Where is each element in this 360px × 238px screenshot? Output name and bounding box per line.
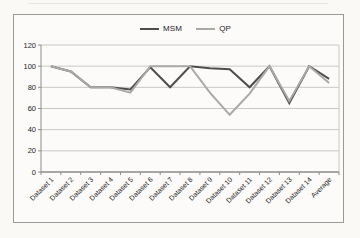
- chart-legend: MSM QP: [14, 24, 343, 33]
- y-tick-label: 20: [28, 146, 36, 155]
- plot-area: 020406080100120Dataset 1Dataset 2Dataset…: [14, 15, 345, 224]
- scan-artifact-line: [28, 3, 328, 4]
- y-tick-label: 0: [32, 168, 36, 177]
- msm-line-swatch: [140, 28, 159, 30]
- legend-label-qp: QP: [219, 24, 231, 33]
- qp-series-line: [51, 66, 329, 115]
- legend-item-msm: MSM: [140, 24, 182, 33]
- y-tick-label: 40: [28, 125, 36, 134]
- y-tick-label: 120: [23, 41, 36, 50]
- legend-label-msm: MSM: [163, 24, 182, 33]
- qp-line-swatch: [196, 28, 215, 30]
- x-tick-label: Average: [309, 176, 333, 200]
- chart: MSM QP 020406080100120Dataset 1Dataset 2…: [13, 14, 344, 223]
- legend-item-qp: QP: [196, 24, 231, 33]
- y-tick-label: 60: [28, 104, 36, 113]
- y-tick-label: 100: [23, 62, 36, 71]
- y-tick-label: 80: [28, 83, 36, 92]
